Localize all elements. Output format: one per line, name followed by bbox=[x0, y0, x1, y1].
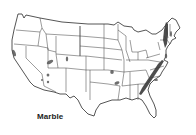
deposit-arkansas bbox=[114, 81, 120, 86]
deposit-arizona-1 bbox=[47, 73, 50, 76]
us-outline bbox=[12, 14, 180, 118]
deposit-colorado bbox=[66, 57, 68, 62]
us-marble-map: Marble bbox=[0, 0, 196, 135]
deposit-new-england bbox=[163, 22, 168, 48]
deposit-arizona-3 bbox=[47, 81, 49, 83]
deposit-arizona-2 bbox=[41, 79, 43, 81]
deposit-north-carolina bbox=[154, 79, 158, 81]
map-title: Marble bbox=[37, 112, 63, 121]
deposit-appalachians bbox=[139, 60, 164, 95]
deposit-maryland bbox=[165, 54, 167, 59]
marble-deposits bbox=[11, 22, 172, 95]
deposit-missouri bbox=[110, 70, 114, 74]
us-map-graphic bbox=[0, 0, 196, 135]
deposit-new-england-2 bbox=[170, 31, 172, 37]
deposit-utah bbox=[46, 59, 54, 65]
